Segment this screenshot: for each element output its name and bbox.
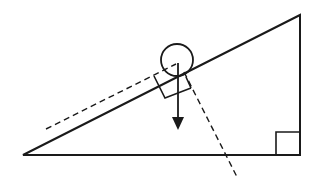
right-angle-marker: [276, 132, 300, 155]
parallel-dashed-line: [46, 64, 176, 129]
component-marker-tick: [186, 77, 191, 88]
incline-triangle: [23, 15, 300, 155]
gravity-arrow-head-icon: [172, 117, 184, 130]
ball: [161, 44, 193, 76]
incline-diagram: [0, 0, 323, 184]
perpendicular-dashed-line: [184, 72, 238, 179]
